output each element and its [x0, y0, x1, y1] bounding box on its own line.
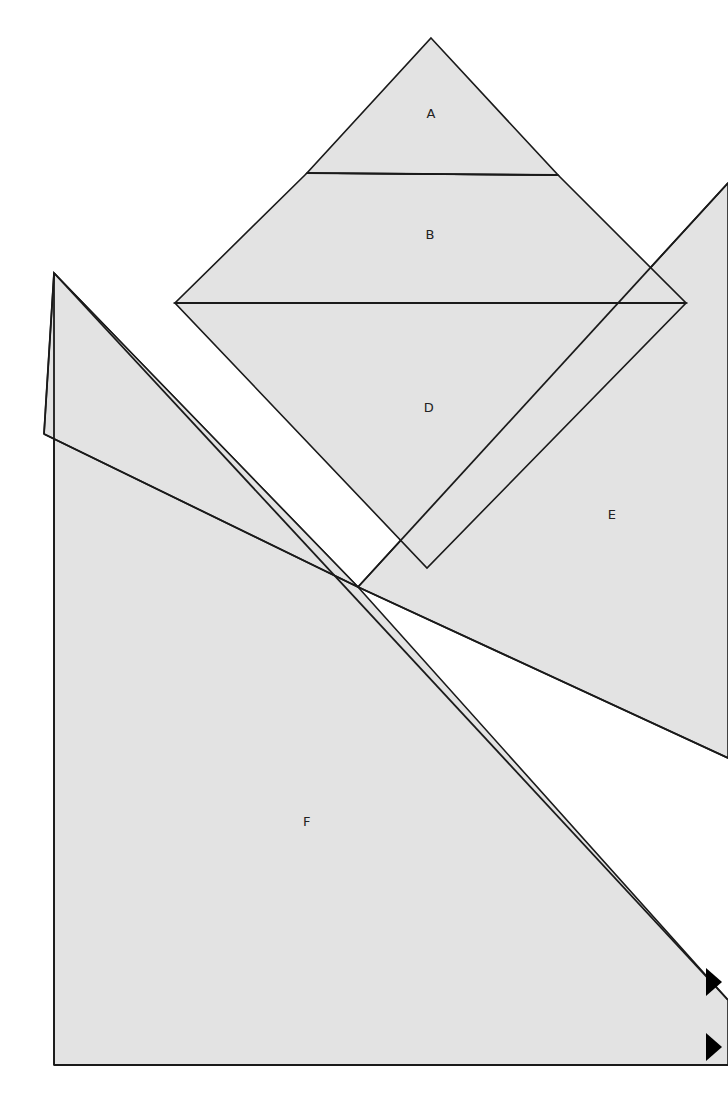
region-fills: [44, 38, 728, 1065]
region-label-D: D: [424, 400, 434, 415]
region-label-E: E: [608, 507, 617, 522]
region-label-A: A: [426, 106, 435, 121]
region-label-B: B: [425, 227, 434, 242]
diagram-canvas: A B D E F: [0, 0, 728, 1119]
region-label-F: F: [303, 814, 311, 829]
geometry-figure: A B D E F: [0, 0, 728, 1119]
